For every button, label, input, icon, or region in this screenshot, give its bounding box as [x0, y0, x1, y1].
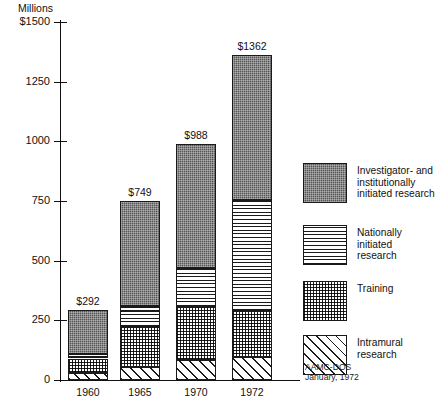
legend-label: Investigator- and institutionally initia… [357, 165, 435, 200]
x-axis-label-1972: 1972 [227, 386, 277, 398]
legend-item: Investigator- and institutionally initia… [303, 163, 438, 205]
bar-value-label: $749 [110, 186, 170, 198]
y-tick-label: $1500 [0, 15, 50, 27]
legend-item: Nationally initiated research [303, 225, 438, 267]
bar-segment [120, 306, 160, 327]
y-tick-label: 750 [0, 194, 50, 206]
legend-label: Intramural research [357, 337, 438, 360]
bar-1972 [232, 55, 272, 380]
x-axis-label-1960: 1960 [63, 386, 113, 398]
y-tick-mark [54, 82, 67, 83]
y-tick-mark [54, 22, 67, 23]
legend-swatch [303, 163, 347, 203]
legend-label: Nationally initiated research [357, 227, 438, 262]
y-tick-mark [54, 320, 67, 321]
bar-segment [68, 373, 108, 380]
bar-segment [68, 354, 108, 358]
bar-1960 [68, 310, 108, 380]
legend-swatch [303, 281, 347, 321]
y-tick-label: 250 [0, 313, 50, 325]
legend-item: Training [303, 281, 438, 323]
bar-segment [232, 357, 272, 380]
bar-segment [232, 55, 272, 200]
y-tick-label: 500 [0, 254, 50, 266]
x-axis-label-1970: 1970 [171, 386, 221, 398]
y-tick-mark [54, 380, 67, 381]
y-tick-label: 1000 [0, 134, 50, 146]
bar-segment [120, 327, 160, 367]
bar-value-label: $988 [166, 129, 226, 141]
legend-swatch [303, 225, 347, 265]
bar-value-label: $292 [58, 295, 118, 307]
bar-1965 [120, 201, 160, 380]
bar-segment [120, 367, 160, 380]
y-tick-mark [54, 261, 67, 262]
y-tick-mark [54, 141, 67, 142]
bar-segment [232, 311, 272, 358]
bar-segment [176, 360, 216, 380]
y-tick-mark [54, 201, 67, 202]
bar-segment [232, 200, 272, 311]
y-axis-title: Millions [18, 2, 53, 14]
bar-segment [120, 201, 160, 306]
x-axis-line [60, 380, 300, 381]
x-axis-label-1965: 1965 [115, 386, 165, 398]
bar-segment [68, 359, 108, 374]
source-note: AAMC-DOS January, 1972 [305, 363, 359, 382]
y-tick-label: 0 [0, 373, 50, 385]
y-tick-label: 1250 [0, 75, 50, 87]
bar-segment [68, 310, 108, 354]
bar-1970 [176, 144, 216, 380]
bar-chart: Millions 025050075010001250$1500 $292$74… [0, 0, 439, 407]
legend-label: Training [357, 283, 393, 295]
bar-value-label: $1362 [222, 40, 282, 52]
bar-segment [176, 144, 216, 268]
bar-segment [176, 307, 216, 360]
bar-segment [176, 268, 216, 307]
